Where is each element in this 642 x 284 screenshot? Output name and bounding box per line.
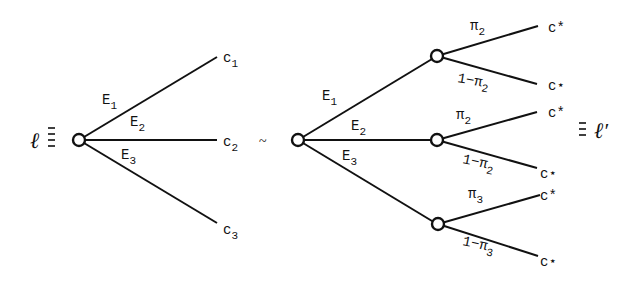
outcome-c1: c1 xyxy=(223,50,238,70)
outcome-c3: c3 xyxy=(223,222,238,242)
edge-r-e3 xyxy=(298,140,437,224)
edge-s1-bottom xyxy=(437,56,537,84)
chance-node-1 xyxy=(431,50,443,62)
label-r-e3: E3 xyxy=(342,148,357,168)
left-root-node xyxy=(73,134,85,146)
edge-r-e1 xyxy=(298,56,437,140)
right-equiv-icon xyxy=(579,123,586,135)
outcome-s3-top: c* xyxy=(540,188,557,204)
edge-s1-top xyxy=(437,26,538,56)
outcome-s2-bottom: c⋆ xyxy=(540,166,557,182)
prob-s1-bottom: 1−π2 xyxy=(456,70,491,95)
edge-s2-top xyxy=(437,112,537,140)
chance-node-3 xyxy=(432,218,444,230)
prob-s3-bottom: 1−π3 xyxy=(460,233,495,259)
edge-s3-top xyxy=(438,195,540,224)
decision-tree-diagram: ℓ E1 E2 E3 c1 c2 c3 ~ E1 E2 E3 π2 1−π2 xyxy=(0,0,642,284)
edge-e1 xyxy=(79,57,217,140)
outcome-c2: c2 xyxy=(223,134,238,154)
outcome-s3-bottom: c⋆ xyxy=(540,254,557,270)
label-e1: E1 xyxy=(102,92,117,112)
right-root-node xyxy=(292,134,304,146)
left-equiv-icon xyxy=(48,128,55,146)
edge-e3 xyxy=(79,140,217,223)
label-r-e1: E1 xyxy=(322,88,337,108)
prob-s1-top: π2 xyxy=(470,18,485,38)
right-lottery-name: ℓ′ xyxy=(594,118,609,143)
left-lottery-name: ℓ xyxy=(30,128,40,153)
outcome-s1-bottom: c⋆ xyxy=(548,78,565,94)
indifference-symbol: ~ xyxy=(259,134,267,149)
label-r-e2: E2 xyxy=(351,118,366,138)
label-e3: E3 xyxy=(121,147,136,167)
chance-node-2 xyxy=(431,134,443,146)
right-lottery: E1 E2 E3 π2 1−π2 c* c⋆ π2 1−π2 c* c⋆ π3 … xyxy=(292,18,609,270)
outcome-s2-top: c* xyxy=(548,105,565,121)
label-e2: E2 xyxy=(130,114,145,134)
outcome-s1-top: c* xyxy=(548,20,565,36)
prob-s3-top: π3 xyxy=(468,186,483,206)
left-lottery: ℓ E1 E2 E3 c1 c2 c3 xyxy=(30,50,238,242)
prob-s2-top: π2 xyxy=(456,107,471,127)
